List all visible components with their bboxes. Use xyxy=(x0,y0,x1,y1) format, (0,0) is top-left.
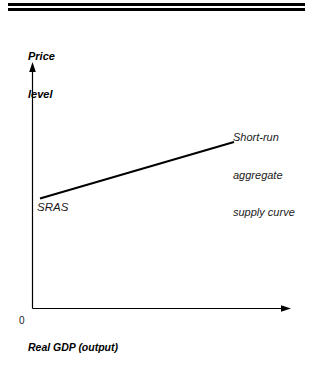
figure-container: Price level Short-run aggregate supply c… xyxy=(0,0,319,370)
x-axis-arrowhead xyxy=(281,305,291,312)
origin-label: 0 xyxy=(19,315,25,328)
y-axis-label: Price level xyxy=(28,25,55,125)
y-axis-label-line2: level xyxy=(28,88,55,101)
sras-curve-line xyxy=(40,142,234,199)
y-axis-label-line1: Price xyxy=(28,50,55,63)
x-axis-label: Real GDP (output) xyxy=(28,341,118,354)
curve-annotation-line2: aggregate xyxy=(233,169,295,182)
curve-annotation: Short-run aggregate supply curve xyxy=(233,106,295,244)
sras-curve-label: SRAS xyxy=(37,201,68,214)
curve-annotation-line3: supply curve xyxy=(233,206,295,219)
curve-annotation-line1: Short-run xyxy=(233,131,295,144)
